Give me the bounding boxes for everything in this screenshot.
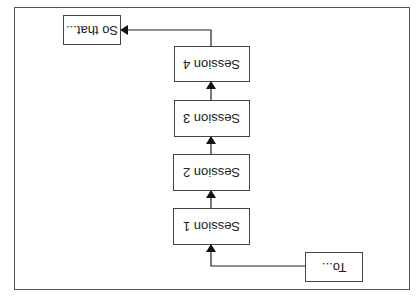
start-box-to: To... [305, 252, 363, 282]
start-label: To... [322, 260, 347, 275]
session-1-label: Session 1 [183, 219, 240, 234]
diagram-canvas: So that... Session 4 Session 3 Session 2… [0, 0, 420, 302]
session-4-box: Session 4 [174, 46, 250, 82]
session-2-box: Session 2 [173, 154, 250, 191]
session-2-label: Session 2 [183, 165, 240, 180]
session-4-label: Session 4 [183, 57, 240, 72]
goal-label: So that... [66, 23, 118, 38]
session-1-box: Session 1 [173, 208, 250, 245]
goal-box-so-that: So that... [63, 15, 121, 45]
session-3-label: Session 3 [183, 111, 240, 126]
session-3-box: Session 3 [174, 100, 250, 137]
